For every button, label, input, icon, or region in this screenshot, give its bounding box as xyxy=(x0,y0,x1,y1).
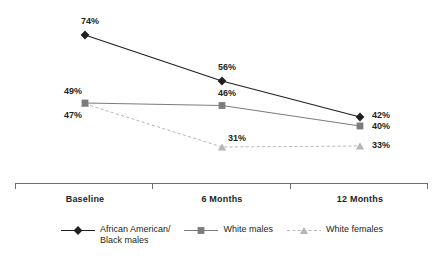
data-label-aa-6mo: 56% xyxy=(218,62,236,72)
series-white-males-marker-baseline xyxy=(82,100,89,107)
series-white-females-marker-12mo xyxy=(356,143,364,150)
data-label-wf-6mo: 31% xyxy=(228,133,246,143)
series-white-males-marker-12mo xyxy=(357,123,364,130)
series-white-females-line xyxy=(85,104,360,147)
legend-key-white-females xyxy=(287,225,321,236)
legend-item-white-males[interactable]: White males xyxy=(184,224,273,236)
legend-key-aa-black-males xyxy=(61,225,95,236)
series-white-males-marker-6mo xyxy=(219,102,226,109)
legend-label-white-females: White females xyxy=(326,224,383,235)
x-axis-label-12-months: 12 Months xyxy=(337,194,383,204)
series-aa-black-males-marker-12mo xyxy=(356,113,365,122)
legend-item-white-females[interactable]: White females xyxy=(287,224,383,236)
data-label-wf-12mo: 33% xyxy=(372,140,390,150)
series-aa-black-males-marker-baseline xyxy=(81,31,90,40)
data-label-aa-baseline: 74% xyxy=(81,16,99,26)
x-axis-label-baseline: Baseline xyxy=(66,194,105,204)
legend-item-aa-black-males[interactable]: African American/ Black males xyxy=(61,224,171,246)
data-label-wm-6mo: 46% xyxy=(218,88,236,98)
legend-label-white-males: White males xyxy=(223,224,273,235)
x-axis xyxy=(15,184,428,190)
data-label-wm-12mo: 40% xyxy=(372,121,390,131)
x-axis-label-6-months: 6 Months xyxy=(201,194,242,204)
data-label-wm-baseline: 49% xyxy=(64,86,82,96)
series-white-males xyxy=(82,100,364,130)
legend-label-aa-black-males: African American/ Black males xyxy=(100,224,171,246)
legend-key-white-males xyxy=(184,225,218,236)
data-label-wf-baseline: 47% xyxy=(64,110,82,120)
chart-legend: African American/ Black males White male… xyxy=(0,224,444,246)
data-label-aa-12mo: 42% xyxy=(372,110,390,120)
chart-container: 74% 56% 42% 49% 46% 40% 47% 31% 33% Base… xyxy=(0,0,444,259)
series-aa-black-males-marker-6mo xyxy=(218,77,227,86)
